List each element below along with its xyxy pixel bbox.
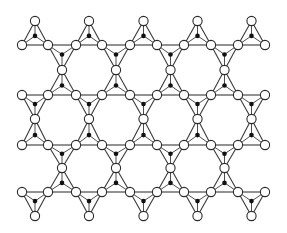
silicon-center-dot bbox=[60, 181, 65, 186]
silicon-center-dot bbox=[168, 151, 173, 156]
oxygen-vertex-circle bbox=[152, 40, 161, 49]
oxygen-vertex-circle bbox=[179, 187, 188, 196]
silicon-center-dot bbox=[249, 102, 254, 107]
oxygen-vertex-circle bbox=[139, 211, 148, 220]
oxygen-vertex-circle bbox=[125, 40, 134, 49]
oxygen-vertex-circle bbox=[260, 140, 269, 149]
silicon-center-dot bbox=[141, 133, 146, 138]
oxygen-vertex-circle bbox=[233, 90, 242, 99]
silicon-center-dot bbox=[33, 102, 38, 107]
silicon-center-dot bbox=[87, 102, 92, 107]
oxygen-vertex-circle bbox=[152, 90, 161, 99]
oxygen-vertex-circle bbox=[97, 187, 106, 196]
silicate-sheet-diagram bbox=[0, 0, 287, 233]
oxygen-vertex-circle bbox=[233, 140, 242, 149]
oxygen-vertex-circle bbox=[17, 90, 26, 99]
oxygen-vertex-circle bbox=[111, 65, 120, 74]
oxygen-vertex-circle bbox=[233, 40, 242, 49]
oxygen-vertex-circle bbox=[71, 140, 80, 149]
oxygen-vertex-circle bbox=[125, 90, 134, 99]
oxygen-vertex-circle bbox=[152, 187, 161, 196]
oxygen-vertex-circle bbox=[193, 211, 202, 220]
oxygen-vertex-circle bbox=[206, 187, 215, 196]
oxygen-vertex-circle bbox=[220, 163, 229, 172]
oxygen-vertex-circle bbox=[111, 163, 120, 172]
oxygen-vertex-circle bbox=[43, 40, 52, 49]
silicon-center-dot bbox=[114, 181, 119, 186]
oxygen-vertex-circle bbox=[84, 211, 93, 220]
oxygen-vertex-circle bbox=[206, 40, 215, 49]
silicon-center-dot bbox=[141, 102, 146, 107]
silicon-center-dot bbox=[195, 199, 200, 204]
oxygen-vertex-circle bbox=[220, 65, 229, 74]
silicon-center-dot bbox=[168, 52, 173, 57]
oxygen-vertex-circle bbox=[247, 114, 256, 123]
silicon-center-dot bbox=[33, 199, 38, 204]
oxygen-vertex-circle bbox=[17, 40, 26, 49]
oxygen-vertex-circle bbox=[179, 90, 188, 99]
silicon-center-dot bbox=[114, 151, 119, 156]
oxygen-vertex-circle bbox=[97, 40, 106, 49]
silicon-center-dot bbox=[222, 181, 227, 186]
silicon-center-dot bbox=[33, 133, 38, 138]
silicon-center-dot bbox=[60, 151, 65, 156]
oxygen-vertex-circle bbox=[139, 114, 148, 123]
oxygen-vertex-circle bbox=[71, 90, 80, 99]
silicon-center-dot bbox=[87, 199, 92, 204]
oxygen-vertex-circle bbox=[179, 140, 188, 149]
oxygen-vertex-circle bbox=[179, 40, 188, 49]
oxygen-vertex-circle bbox=[30, 114, 39, 123]
silicon-center-dot bbox=[195, 34, 200, 39]
silicon-center-dot bbox=[141, 199, 146, 204]
oxygen-vertex-circle bbox=[152, 140, 161, 149]
oxygen-vertex-circle bbox=[260, 90, 269, 99]
oxygen-vertex-circle bbox=[260, 187, 269, 196]
silicon-center-dot bbox=[222, 52, 227, 57]
oxygen-vertex-circle bbox=[84, 16, 93, 25]
oxygen-vertex-circle bbox=[17, 187, 26, 196]
oxygen-vertex-circle bbox=[97, 140, 106, 149]
oxygen-vertex-circle bbox=[206, 140, 215, 149]
silicon-center-dot bbox=[114, 52, 119, 57]
silicon-center-dot bbox=[168, 83, 173, 88]
oxygen-vertex-circle bbox=[43, 187, 52, 196]
oxygen-vertex-circle bbox=[30, 16, 39, 25]
oxygen-vertex-circle bbox=[139, 16, 148, 25]
silicon-center-dot bbox=[114, 83, 119, 88]
silicon-center-dot bbox=[249, 34, 254, 39]
oxygen-vertex-circle bbox=[71, 187, 80, 196]
oxygen-vertex-circle bbox=[166, 65, 175, 74]
oxygen-vertex-circle bbox=[57, 65, 66, 74]
oxygen-vertex-circle bbox=[43, 90, 52, 99]
silicon-center-dot bbox=[195, 133, 200, 138]
silicon-center-dot bbox=[195, 102, 200, 107]
oxygen-vertex-circle bbox=[43, 140, 52, 149]
oxygen-vertex-circle bbox=[193, 16, 202, 25]
silicon-center-dot bbox=[60, 52, 65, 57]
oxygen-vertex-circle bbox=[97, 90, 106, 99]
oxygen-vertex-circle bbox=[206, 90, 215, 99]
oxygen-vertex-circle bbox=[193, 114, 202, 123]
oxygen-vertex-circle bbox=[57, 163, 66, 172]
oxygen-vertex-circle bbox=[125, 187, 134, 196]
silicon-center-dot bbox=[168, 181, 173, 186]
silicon-center-dot bbox=[87, 133, 92, 138]
oxygen-vertex-circle bbox=[260, 40, 269, 49]
silicon-center-dot bbox=[60, 83, 65, 88]
silicon-center-dot bbox=[249, 199, 254, 204]
silicon-center-dot bbox=[87, 34, 92, 39]
oxygen-vertex-circle bbox=[233, 187, 242, 196]
oxygen-vertex-circle bbox=[71, 40, 80, 49]
oxygen-vertex-circle bbox=[17, 140, 26, 149]
oxygen-vertex-circle bbox=[247, 16, 256, 25]
oxygen-vertex-circle bbox=[84, 114, 93, 123]
oxygen-vertex-circle bbox=[247, 211, 256, 220]
silicon-center-dot bbox=[222, 83, 227, 88]
silicon-center-dot bbox=[249, 133, 254, 138]
silicon-center-dot bbox=[222, 151, 227, 156]
silicon-center-dot bbox=[141, 34, 146, 39]
oxygen-vertex-circle bbox=[125, 140, 134, 149]
silicon-center-dot bbox=[33, 34, 38, 39]
oxygen-vertex-circle bbox=[30, 211, 39, 220]
oxygen-vertex-circle bbox=[166, 163, 175, 172]
